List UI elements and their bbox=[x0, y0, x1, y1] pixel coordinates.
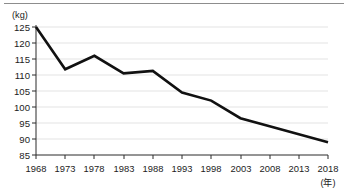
x-tick-label-2008: 2008 bbox=[260, 163, 281, 174]
x-tick-labels: 1968 1973 1978 1983 1988 1993 1998 2003 … bbox=[26, 163, 339, 174]
x-axis bbox=[36, 155, 328, 159]
y-tick-label-115: 115 bbox=[15, 54, 30, 65]
y-gridlines bbox=[36, 27, 328, 139]
x-tick-label-1993: 1993 bbox=[172, 163, 193, 174]
x-axis-unit-label: (年) bbox=[320, 177, 335, 188]
x-tick-label-2013: 2013 bbox=[289, 163, 310, 174]
y-tick-label-120: 120 bbox=[14, 38, 30, 49]
x-tick-label-1968: 1968 bbox=[26, 163, 47, 174]
chart-container: 125 120 115 110 105 100 95 90 85 (kg) bbox=[0, 0, 348, 191]
y-tick-label-110: 110 bbox=[15, 70, 30, 81]
y-tick-label-125: 125 bbox=[14, 22, 30, 33]
y-tick-labels: 125 120 115 110 105 100 95 90 85 bbox=[14, 22, 30, 161]
line-chart-svg: 125 120 115 110 105 100 95 90 85 (kg) bbox=[0, 0, 348, 191]
y-tick-label-85: 85 bbox=[19, 150, 30, 161]
x-tick-label-2003: 2003 bbox=[231, 163, 252, 174]
y-tick-label-100: 100 bbox=[14, 102, 30, 113]
x-tick-label-1998: 1998 bbox=[201, 163, 222, 174]
x-tick-label-2018: 2018 bbox=[318, 163, 339, 174]
y-tick-label-105: 105 bbox=[14, 86, 30, 97]
y-axis-unit-label: (kg) bbox=[12, 10, 28, 20]
x-tick-label-1973: 1973 bbox=[55, 163, 76, 174]
x-tick-label-1988: 1988 bbox=[143, 163, 164, 174]
x-tick-label-1978: 1978 bbox=[84, 163, 105, 174]
y-tick-label-90: 90 bbox=[19, 134, 30, 145]
x-tick-label-1983: 1983 bbox=[114, 163, 135, 174]
y-axis bbox=[32, 25, 36, 155]
y-tick-label-95: 95 bbox=[19, 118, 30, 129]
data-series-line bbox=[36, 27, 328, 142]
